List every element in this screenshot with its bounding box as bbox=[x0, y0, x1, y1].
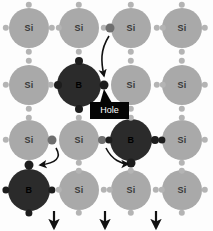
semiconductor-lattice-diagram: SiSiSiSiSiBSiSiSiSiBSiBSiSiSi Hole bbox=[0, 0, 213, 231]
field-direction-arrows bbox=[54, 211, 156, 228]
hole-label-box: Hole bbox=[90, 102, 129, 119]
hole-pointer bbox=[100, 89, 112, 103]
curved-electron-arrows bbox=[40, 36, 128, 165]
electron-jump-right bbox=[106, 148, 128, 164]
electron-jump-top bbox=[102, 36, 109, 76]
hole-label-text: Hole bbox=[100, 106, 119, 115]
electron-jump-left bbox=[40, 148, 58, 165]
